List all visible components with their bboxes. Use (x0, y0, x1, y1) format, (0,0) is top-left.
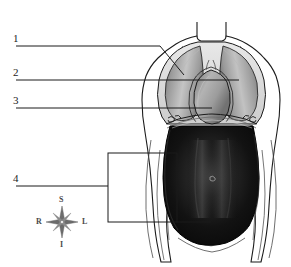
callout-label-2: 2 (13, 67, 19, 78)
thoracic-cavity (158, 42, 266, 124)
compass-label-inferior: I (60, 241, 63, 249)
figure-canvas: 1 2 3 4 S I R L (0, 0, 291, 267)
callout-label-1: 1 (13, 33, 19, 44)
callout-label-4: 4 (13, 173, 19, 184)
anatomical-orientation-rose (46, 206, 78, 238)
compass-label-left: L (82, 218, 87, 226)
anatomy-illustration (0, 0, 291, 267)
callout-label-3: 3 (13, 95, 19, 106)
compass-label-superior: S (59, 196, 63, 204)
compass-label-right: R (36, 218, 42, 226)
leader-line-1 (16, 46, 184, 75)
